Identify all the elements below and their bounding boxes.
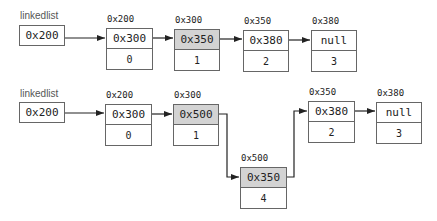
arrow2-0x300-to-0x500 <box>218 114 239 177</box>
list-node-inserted: 0x350 4 <box>240 167 287 209</box>
node-next-pointer: 0x350 <box>241 168 286 188</box>
node-value: 0 <box>107 49 152 69</box>
node-next-pointer: 0x380 <box>309 102 354 122</box>
node-address: 0x300 <box>175 15 202 25</box>
head-label: linkedlist <box>20 10 58 21</box>
node-value: 3 <box>377 123 421 143</box>
node-value: 2 <box>244 51 288 71</box>
node-next-pointer: 0x380 <box>244 31 288 51</box>
node-address: 0x350 <box>309 87 336 97</box>
arrow2-0x500-to-0x350 <box>286 111 307 177</box>
list-node-highlighted: 0x500 1 <box>173 104 219 146</box>
list-node: null 3 <box>311 30 357 72</box>
node-value: 4 <box>241 188 286 208</box>
head-pointer-box: 0x200 <box>19 25 65 46</box>
list-node-highlighted: 0x350 1 <box>174 29 220 71</box>
list-node: null 3 <box>376 102 422 144</box>
node-address: 0x500 <box>241 153 268 163</box>
node-next-pointer: null <box>377 103 421 123</box>
node-value: 0 <box>106 125 151 145</box>
node-value: 3 <box>312 51 356 71</box>
node-address: 0x380 <box>312 16 339 26</box>
node-address: 0x200 <box>107 14 134 24</box>
node-value: 2 <box>309 122 354 142</box>
node-value: 1 <box>174 125 218 145</box>
list-node: 0x300 0 <box>105 104 152 146</box>
node-next-pointer: null <box>312 31 356 51</box>
node-next-pointer: 0x300 <box>106 105 151 125</box>
node-next-pointer: 0x300 <box>107 29 152 49</box>
node-address: 0x300 <box>174 90 201 100</box>
head-label: linkedlist <box>20 88 58 99</box>
head-pointer-box: 0x200 <box>19 102 65 123</box>
node-address: 0x380 <box>377 88 404 98</box>
node-address: 0x200 <box>106 90 133 100</box>
node-value: 1 <box>175 50 219 70</box>
node-next-pointer: 0x500 <box>174 105 218 125</box>
list-node: 0x380 2 <box>308 101 355 143</box>
node-next-pointer: 0x350 <box>175 30 219 50</box>
node-address: 0x350 <box>244 16 271 26</box>
list-node: 0x380 2 <box>243 30 289 72</box>
list-node: 0x300 0 <box>106 28 153 70</box>
